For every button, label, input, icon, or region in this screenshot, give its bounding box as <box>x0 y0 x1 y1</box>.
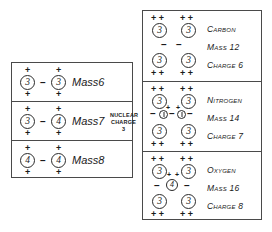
nucleon-top-left: 3 <box>152 23 167 38</box>
charge-plus-bottom-right: + + <box>180 210 193 219</box>
mass-label: Mass8 <box>72 154 104 166</box>
nucleon-bottom-left: 3 <box>152 194 167 209</box>
nucleon-left: 4 <box>20 153 35 168</box>
charge-plus-top-left: + <box>25 66 30 75</box>
nucleon-top-right: 3 <box>181 164 196 179</box>
charge-plus-bottom-right: + <box>56 90 61 99</box>
element-row-nitrogen: + + + + 3 3 + + – – – 3 3 + + + + Nitrog… <box>143 81 261 151</box>
nucleon-top-left: 3 <box>152 164 167 179</box>
bond-minus-left: – <box>154 181 160 190</box>
charge-plus-bottom-right: + + <box>180 69 193 78</box>
neutron-icon-right <box>177 110 186 119</box>
bond-minus-left: – <box>161 40 167 49</box>
charge-plus-bottom-left: + <box>25 90 30 99</box>
nuclear-charge-note-line2: CHARGE <box>111 119 136 126</box>
bond-minus-middle: – <box>169 109 175 118</box>
nucleon-left: 3 <box>20 75 35 90</box>
nuclear-charge-note-line1: NUCLEAR <box>110 112 138 119</box>
nucleon-bottom-left: 3 <box>152 53 167 68</box>
bond-separator: – <box>40 156 46 165</box>
elements-panel: + + + + 3 3 – – 3 3 + + + + Carbon Mass … <box>142 10 262 220</box>
charge-plus-bottom-right: + + <box>180 140 193 149</box>
charge-plus-top-right: + + <box>180 14 193 23</box>
charge-plus-bottom-right: + <box>56 168 61 177</box>
element-name-label: Oxygen <box>207 166 236 175</box>
mass-label: Mass7 <box>72 115 104 127</box>
nuclear-charge-note-value: 3 <box>122 126 125 133</box>
charge-plus-top-left: + <box>25 105 30 114</box>
bond-minus-right: – <box>187 109 193 118</box>
mass-label: Mass6 <box>72 76 104 88</box>
charge-plus-bottom-left: + <box>25 168 30 177</box>
charge-plus-bottom-left: + + <box>151 140 164 149</box>
charge-plus-top-left: + + <box>151 155 164 164</box>
element-mass-label: Mass 12 <box>207 43 239 52</box>
charge-plus-bottom-left: + + <box>151 69 164 78</box>
element-name-label: Nitrogen <box>207 96 242 105</box>
charge-plus-bottom-right: + <box>56 129 61 138</box>
element-mass-label: Mass 16 <box>207 184 239 193</box>
nucleon-top-left: 3 <box>152 94 167 109</box>
isotope-row-mass8: + + 4 – 4 + + Mass8 <box>12 140 132 178</box>
nucleon-right: 4 <box>51 153 66 168</box>
nucleon-top-right: 3 <box>181 23 196 38</box>
charge-plus-top-left: + + <box>151 85 164 94</box>
nucleon-right: 4 <box>51 114 66 129</box>
element-charge-label: Charge 7 <box>207 132 243 141</box>
charge-plus-top-right: + <box>56 105 61 114</box>
inner-plus-left: + <box>167 170 171 179</box>
nucleon-center: 4 <box>166 179 178 191</box>
element-charge-label: Charge 6 <box>207 61 243 70</box>
element-row-oxygen: + + + + 3 3 + + – 4 – 3 3 + + + + Oxygen… <box>143 151 261 221</box>
charge-plus-top-right: + + <box>180 85 193 94</box>
nucleon-left: 3 <box>20 114 35 129</box>
charge-plus-bottom-left: + <box>25 129 30 138</box>
bond-minus-right: – <box>176 40 182 49</box>
nucleon-right: 3 <box>51 75 66 90</box>
element-name-label: Carbon <box>207 25 236 34</box>
nucleon-bottom-left: 3 <box>152 124 167 139</box>
charge-plus-bottom-left: + + <box>151 210 164 219</box>
element-charge-label: Charge 8 <box>207 202 243 211</box>
nucleon-bottom-right: 3 <box>181 194 196 209</box>
charge-plus-top-right: + <box>56 144 61 153</box>
nucleon-bottom-right: 3 <box>181 124 196 139</box>
bond-minus-right: – <box>184 181 190 190</box>
bond-separator: – <box>40 78 46 87</box>
charge-plus-top-left: + <box>25 144 30 153</box>
charge-plus-top-right: + <box>56 66 61 75</box>
nucleon-bottom-right: 3 <box>181 53 196 68</box>
neutron-icon-left <box>159 110 168 119</box>
isotope-row-mass7: + + 3 – 4 + + Mass7 NUCLEAR CHARGE 3 <box>12 101 132 139</box>
element-mass-label: Mass 14 <box>207 114 239 123</box>
charge-plus-top-right: + + <box>180 155 193 164</box>
element-row-carbon: + + + + 3 3 – – 3 3 + + + + Carbon Mass … <box>143 11 261 81</box>
bond-minus-left: – <box>150 109 156 118</box>
bond-separator: – <box>40 117 46 126</box>
lithium-isotopes-panel: + + 3 – 3 + + Mass6 + + 3 – 4 + + Mass7 … <box>11 62 133 178</box>
nucleon-top-right: 3 <box>181 94 196 109</box>
charge-plus-top-left: + + <box>151 14 164 23</box>
isotope-row-mass6: + + 3 – 3 + + Mass6 <box>12 63 132 101</box>
inner-plus-right: + <box>175 170 179 179</box>
